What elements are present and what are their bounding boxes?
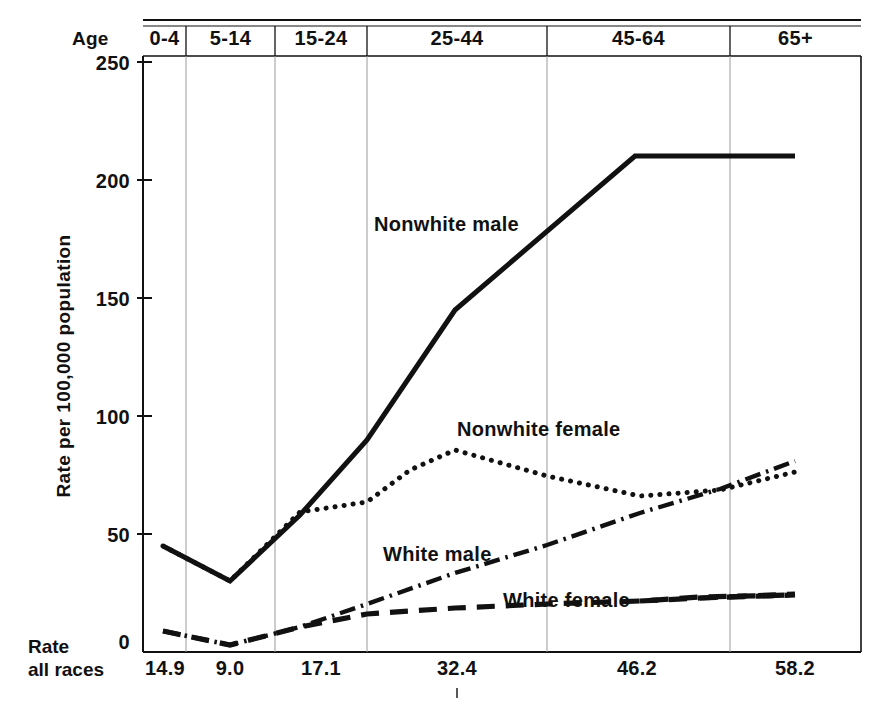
series-label-nonwhite-male: Nonwhite male bbox=[374, 213, 519, 236]
age-band-5-14: 5-14 bbox=[186, 27, 275, 50]
age-band-0-4: 0-4 bbox=[143, 27, 186, 50]
series-label-nonwhite-female: Nonwhite female bbox=[457, 418, 620, 441]
series-line-white-female bbox=[163, 595, 795, 645]
rate-all-races-value-45-64: 46.2 bbox=[597, 657, 677, 680]
ytick-label-50: 50 bbox=[60, 524, 130, 547]
ytick-label-0: 0 bbox=[60, 631, 130, 654]
age-band-65-plus: 65+ bbox=[730, 27, 861, 50]
age-axis-label: Age bbox=[72, 28, 109, 50]
age-band-25-44: 25-44 bbox=[367, 27, 547, 50]
chart-figure: Age Rate all races 0-4 5-14 15-24 25-44 … bbox=[0, 0, 881, 719]
series-label-white-male: White male bbox=[383, 543, 492, 566]
rate-all-races-label-line2: all races bbox=[28, 659, 104, 681]
rate-all-races-value-15-24: 17.1 bbox=[281, 657, 361, 680]
ytick-label-200: 200 bbox=[60, 170, 130, 193]
rate-all-races-value-25-44: 32.4 bbox=[417, 657, 497, 680]
rate-all-races-value-65-plus: 58.2 bbox=[755, 657, 835, 680]
y-axis-title: Rate per 100,000 population bbox=[53, 206, 75, 526]
ytick-label-250: 250 bbox=[60, 52, 130, 75]
series-label-white-female: White female bbox=[503, 589, 630, 612]
chart-canvas bbox=[0, 0, 881, 719]
age-band-15-24: 15-24 bbox=[275, 27, 367, 50]
rate-all-races-value-5-14: 9.0 bbox=[190, 657, 270, 680]
age-band-45-64: 45-64 bbox=[547, 27, 730, 50]
